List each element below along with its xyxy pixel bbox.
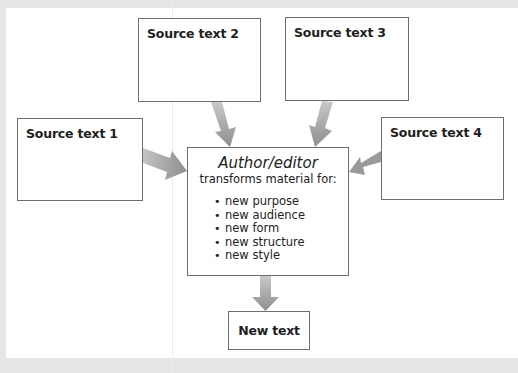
arrow-author-to-newtext [252,276,279,311]
list-item: new form [214,222,305,236]
author-editor-box: Author/editor transforms material for: n… [187,147,349,276]
source-text-3-box: Source text 3 [285,17,409,101]
source-text-4-label: Source text 4 [390,125,482,140]
source-text-2-label: Source text 2 [147,26,239,41]
list-item: new structure [214,236,305,250]
list-item: new audience [214,209,305,223]
source-text-1-label: Source text 1 [26,126,118,141]
list-item: new purpose [214,195,305,209]
source-text-2-box: Source text 2 [138,18,261,102]
author-editor-subheading: transforms material for: [188,172,348,186]
arrow-source4-to-author [349,151,381,175]
list-item: new style [214,249,305,263]
arrow-source3-to-author [309,101,333,147]
new-text-box: New text [228,311,310,350]
new-text-label: New text [229,323,309,338]
source-text-4-box: Source text 4 [381,117,504,200]
source-text-3-label: Source text 3 [294,25,386,40]
author-editor-heading: Author/editor [188,155,348,172]
source-text-1-box: Source text 1 [17,118,143,201]
arrow-source1-to-author [143,148,187,180]
arrow-source2-to-author [211,102,236,147]
transformation-list: new purpose new audience new form new st… [214,195,305,263]
